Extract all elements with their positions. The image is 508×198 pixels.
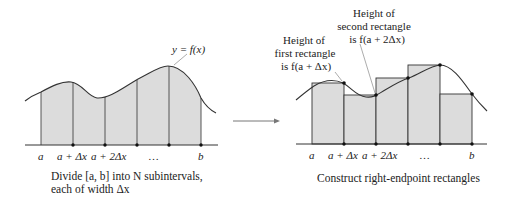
right-panel: Height of first rectangle is f(a + Δx) H…	[275, 7, 487, 185]
right-endpoint-rectangles	[312, 65, 472, 144]
second-annotation-line1: Height of	[353, 7, 395, 19]
curve-label: y = f(x)	[171, 43, 205, 56]
second-annotation-line2: second rectangle	[337, 20, 411, 32]
left-caption-line1: Divide [a, b] into N subintervals,	[51, 170, 203, 183]
first-annotation-leader	[335, 72, 342, 81]
tick-label-a-plus-dx: a + Δx	[328, 149, 358, 161]
first-annotation-line3: is f(a + Δx)	[281, 60, 332, 73]
left-panel: y = f(x) a a + Δx a + 2Δx … b Divide [a,…	[25, 43, 218, 195]
tick-label-a: a	[309, 149, 315, 161]
rectangle-3	[376, 78, 408, 144]
tick-label-b: b	[198, 150, 204, 162]
tick-label-a-plus-2dx: a + 2Δx	[91, 150, 126, 162]
tick-label-a-plus-2dx: a + 2Δx	[362, 149, 397, 161]
rectangle-2	[344, 95, 376, 144]
tick-label-ellipsis: …	[148, 150, 159, 162]
tick-label-a: a	[38, 150, 44, 162]
tick-label-a-plus-dx: a + Δx	[57, 150, 87, 162]
curve-label-leader	[174, 54, 187, 65]
riemann-diagram: y = f(x) a a + Δx a + 2Δx … b Divide [a,…	[0, 0, 508, 198]
rectangle-5	[440, 94, 472, 144]
tick-label-b: b	[469, 149, 475, 161]
area-under-curve	[41, 66, 201, 145]
second-annotation-line3: is f(a + 2Δx)	[349, 33, 405, 46]
right-caption: Construct right-endpoint rectangles	[317, 172, 480, 185]
left-caption-line2: each of width Δx	[51, 183, 130, 195]
tick-label-ellipsis: …	[419, 149, 430, 161]
first-annotation-line1: Height of	[283, 34, 325, 46]
rectangle-1	[312, 83, 344, 144]
first-annotation-line2: first rectangle	[275, 47, 336, 59]
transition-arrow	[233, 119, 280, 124]
second-annotation-leader	[360, 44, 375, 93]
